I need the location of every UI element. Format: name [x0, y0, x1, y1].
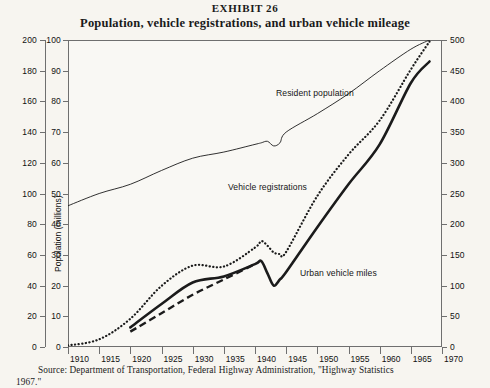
x-axis-tick-label: 1955 [351, 354, 370, 364]
axis-tick-label: 0 [56, 342, 61, 352]
axis-tick [40, 224, 45, 225]
exhibit-number: EXHIBIT 26 [0, 2, 490, 14]
x-axis-tick-label: 1940 [257, 354, 276, 364]
axis-tick-label: 0 [32, 342, 37, 352]
axis-tick-label: 40 [51, 219, 61, 229]
x-axis-tick-label: 1935 [226, 354, 245, 364]
axis-tick-label: 0 [450, 342, 455, 352]
axis-tick [442, 132, 447, 133]
x-axis-tick-label: 1970 [444, 354, 463, 364]
axis-tick-label: 200 [450, 219, 465, 229]
axis-tick [442, 40, 447, 41]
axis-tick [442, 101, 447, 102]
axis-tick-label: 120 [22, 158, 37, 168]
axis-tick [442, 194, 447, 195]
source-line-1: Source: Department of Transportation, Fe… [38, 365, 394, 375]
x-axis-tick [99, 347, 100, 354]
axis-tick-label: 140 [22, 127, 37, 137]
x-axis-tick-label: 1945 [288, 354, 307, 364]
axis-tick [40, 40, 45, 41]
axis-tick-label: 90 [51, 66, 61, 76]
axis-tick [442, 71, 447, 72]
axis-tick [40, 255, 45, 256]
axis-tick [40, 163, 45, 164]
axis-tick-label: 300 [450, 158, 465, 168]
axis-tick [442, 286, 447, 287]
x-axis-tick [411, 347, 412, 354]
x-axis-tick-label: 1950 [319, 354, 338, 364]
axis-tick-label: 180 [22, 66, 37, 76]
x-axis-tick [130, 347, 131, 354]
x-axis-tick [68, 347, 69, 354]
axis-tick [40, 132, 45, 133]
x-axis-tick [442, 347, 443, 354]
axis-tick-label: 20 [51, 281, 61, 291]
x-axis-tick [286, 347, 287, 354]
x-axis-tick-label: 1915 [101, 354, 120, 364]
population-axis-title: Population (millions) [53, 195, 63, 272]
axis-tick-label: 50 [450, 311, 460, 321]
axis-tick [40, 101, 45, 102]
axis-tick [442, 316, 447, 317]
x-axis-tick [255, 347, 256, 354]
axis-tick-label: 160 [22, 96, 37, 106]
axis-tick [40, 194, 45, 195]
x-axis-tick [349, 347, 350, 354]
axis-tick-label: 100 [22, 189, 37, 199]
axis-tick-label: 150 [450, 250, 465, 260]
series-label-registrations: Vehicle registrations [228, 182, 307, 192]
x-axis-tick-label: 1910 [70, 354, 89, 364]
x-axis-tick [380, 347, 381, 354]
series-line-urban-vehicle-miles [130, 61, 429, 327]
axis-tick [442, 163, 447, 164]
axis-tick-label: 100 [450, 281, 465, 291]
axis-tick [442, 224, 447, 225]
axis-tick-label: 20 [27, 311, 37, 321]
source-note: Source: Department of Transportation, Fe… [38, 365, 478, 388]
axis-tick-label: 30 [51, 250, 61, 260]
axis-tick [442, 255, 447, 256]
axis-tick-label: 100 [46, 35, 61, 45]
axis-tick [40, 286, 45, 287]
axis-tick [40, 316, 45, 317]
series-line-resident-population [68, 40, 430, 206]
series-label-urban: Urban vehicle miles [300, 268, 377, 278]
x-axis-tick-label: 1920 [132, 354, 151, 364]
x-axis-tick [162, 347, 163, 354]
axis-tick-label: 40 [27, 281, 37, 291]
series-label-population: Resident population [276, 88, 354, 98]
axis-tick [40, 347, 45, 348]
chart-title: Population, vehicle registrations, and u… [0, 16, 490, 31]
x-axis-tick [317, 347, 318, 354]
axis-tick-label: 60 [51, 158, 61, 168]
axis-tick-label: 50 [51, 189, 61, 199]
x-axis-tick-label: 1960 [382, 354, 401, 364]
x-axis-tick-label: 1965 [413, 354, 432, 364]
x-axis-tick [193, 347, 194, 354]
x-axis-tick [224, 347, 225, 354]
axis-tick-label: 350 [450, 127, 465, 137]
axis-tick-label: 250 [450, 189, 465, 199]
axis-tick-label: 70 [51, 127, 61, 137]
x-axis-tick-label: 1930 [195, 354, 214, 364]
plot-curves [68, 40, 442, 347]
axis-tick-label: 80 [51, 96, 61, 106]
axis-tick-label: 10 [51, 311, 61, 321]
axis-tick-label: 400 [450, 96, 465, 106]
source-line-2: 1967." [16, 377, 478, 388]
axis-tick-label: 60 [27, 250, 37, 260]
series-svg [68, 40, 442, 347]
axis-tick-label: 450 [450, 66, 465, 76]
chart-page: EXHIBIT 26 Population, vehicle registrat… [0, 0, 490, 388]
axis-tick-label: 200 [22, 35, 37, 45]
series-line-vehicle-registrations [68, 42, 430, 346]
axis-tick [40, 71, 45, 72]
axis-tick-label: 80 [27, 219, 37, 229]
population-axis-line [45, 40, 46, 347]
axis-tick-label: 500 [450, 35, 465, 45]
x-axis-tick-label: 1925 [164, 354, 183, 364]
